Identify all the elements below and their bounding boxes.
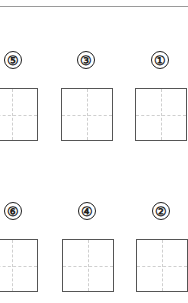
question-number: ② xyxy=(152,202,170,220)
guide-line-horizontal xyxy=(0,115,37,116)
question-number: ⑤ xyxy=(4,51,22,69)
top-rule xyxy=(0,6,188,7)
guide-line-horizontal xyxy=(62,115,112,116)
writing-box[interactable] xyxy=(136,239,188,292)
guide-line-horizontal xyxy=(136,115,186,116)
writing-box[interactable] xyxy=(62,239,114,292)
question-number: ③ xyxy=(77,51,95,69)
writing-box[interactable] xyxy=(0,88,38,141)
guide-line-horizontal xyxy=(63,266,113,267)
writing-box[interactable] xyxy=(0,239,38,292)
guide-line-horizontal xyxy=(137,266,187,267)
question-number: ⑥ xyxy=(4,202,22,220)
question-number: ④ xyxy=(78,202,96,220)
writing-box[interactable] xyxy=(61,88,113,141)
guide-line-horizontal xyxy=(0,266,37,267)
question-number: ① xyxy=(151,51,169,69)
writing-box[interactable] xyxy=(135,88,187,141)
